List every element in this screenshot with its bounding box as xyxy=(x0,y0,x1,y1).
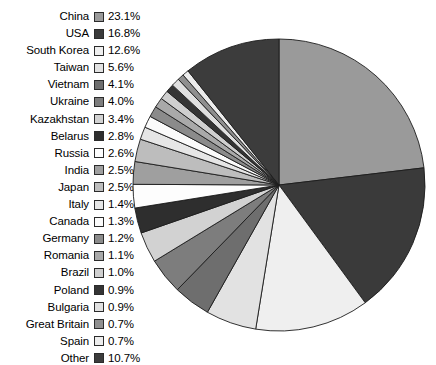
legend-item-label: Spain xyxy=(60,333,89,350)
legend-item-label: USA xyxy=(66,25,89,42)
legend-item[interactable]: Vietnam4.1% xyxy=(0,76,150,93)
legend-item-label: Italy xyxy=(68,196,89,213)
legend-item[interactable]: Kazakhstan3.4% xyxy=(0,111,150,128)
pie-slice[interactable] xyxy=(279,39,424,185)
legend-color-swatch xyxy=(94,217,104,227)
legend-item-value: 10.7% xyxy=(108,350,150,365)
legend-item-value: 23.1% xyxy=(108,8,150,25)
legend-color-swatch xyxy=(94,285,104,295)
legend-color-swatch xyxy=(94,46,104,56)
legend-color-swatch xyxy=(94,148,104,158)
legend-color-swatch xyxy=(94,353,104,363)
legend-color-swatch xyxy=(94,97,104,107)
legend-item-value: 0.7% xyxy=(108,333,150,350)
legend-item[interactable]: Other10.7% xyxy=(0,350,150,365)
legend-item-label: Belarus xyxy=(51,128,89,145)
legend-item[interactable]: South Korea12.6% xyxy=(0,42,150,59)
legend-item[interactable]: Taiwan5.6% xyxy=(0,59,150,76)
pie-chart-figure: China23.1%USA16.8%South Korea12.6%Taiwan… xyxy=(0,0,436,365)
legend-item[interactable]: Romania1.1% xyxy=(0,247,150,264)
legend-item[interactable]: Japan2.5% xyxy=(0,179,150,196)
legend-item-label: Germany xyxy=(42,230,89,247)
pie-chart-area xyxy=(132,38,426,332)
legend-color-swatch xyxy=(94,182,104,192)
legend-item[interactable]: Spain0.7% xyxy=(0,333,150,350)
legend-color-swatch xyxy=(94,234,104,244)
legend-item[interactable]: USA16.8% xyxy=(0,25,150,42)
legend-color-swatch xyxy=(94,29,104,39)
legend-item-label: Great Britain xyxy=(26,316,89,333)
legend-item-label: Romania xyxy=(44,247,89,264)
legend-item[interactable]: Bulgaria0.9% xyxy=(0,299,150,316)
legend-item[interactable]: India2.5% xyxy=(0,162,150,179)
legend-item-label: Ukraine xyxy=(50,93,89,110)
legend-color-swatch xyxy=(94,268,104,278)
legend-item-label: Poland xyxy=(54,282,89,299)
legend-item-label: Taiwan xyxy=(54,59,89,76)
legend-item-label: Vietnam xyxy=(48,76,89,93)
legend-color-swatch xyxy=(94,336,104,346)
pie-chart-svg xyxy=(132,38,426,332)
legend-item-label: India xyxy=(65,162,89,179)
legend-color-swatch xyxy=(94,302,104,312)
legend-item-label: Kazakhstan xyxy=(30,111,89,128)
legend-item[interactable]: Poland0.9% xyxy=(0,282,150,299)
legend-item[interactable]: Germany1.2% xyxy=(0,230,150,247)
legend-item[interactable]: China23.1% xyxy=(0,8,150,25)
legend-color-swatch xyxy=(94,251,104,261)
legend-color-swatch xyxy=(94,200,104,210)
chart-legend: China23.1%USA16.8%South Korea12.6%Taiwan… xyxy=(0,8,150,365)
legend-color-swatch xyxy=(94,131,104,141)
pie-slice-group xyxy=(133,39,425,331)
legend-item-label: Other xyxy=(61,350,89,365)
legend-color-swatch xyxy=(94,165,104,175)
legend-color-swatch xyxy=(94,319,104,329)
legend-item[interactable]: Great Britain0.7% xyxy=(0,316,150,333)
legend-item-label: Canada xyxy=(49,213,89,230)
legend-item-label: Japan xyxy=(58,179,89,196)
legend-item[interactable]: Italy1.4% xyxy=(0,196,150,213)
legend-item-label: Bulgaria xyxy=(48,299,89,316)
legend-item[interactable]: Ukraine4.0% xyxy=(0,93,150,110)
legend-color-swatch xyxy=(94,63,104,73)
legend-item[interactable]: Russia2.6% xyxy=(0,145,150,162)
legend-color-swatch xyxy=(94,114,104,124)
legend-item[interactable]: Belarus2.8% xyxy=(0,128,150,145)
legend-color-swatch xyxy=(94,12,104,22)
legend-item[interactable]: Brazil1.0% xyxy=(0,264,150,281)
legend-item-label: Russia xyxy=(54,145,89,162)
legend-item-label: South Korea xyxy=(26,42,89,59)
legend-color-swatch xyxy=(94,80,104,90)
legend-item[interactable]: Canada1.3% xyxy=(0,213,150,230)
legend-item-label: Brazil xyxy=(61,264,89,281)
legend-item-label: China xyxy=(59,8,89,25)
